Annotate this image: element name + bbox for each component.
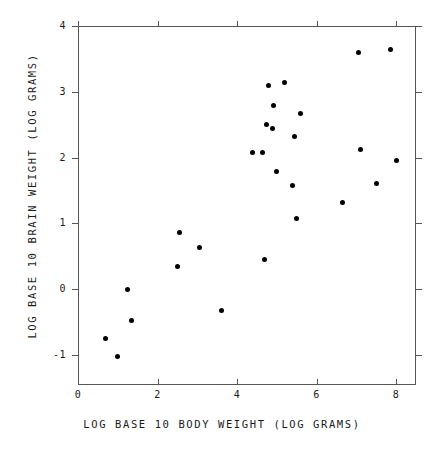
data-point (394, 158, 399, 163)
y-axis-tick (416, 223, 422, 224)
data-point (103, 336, 108, 341)
y-axis-tick (416, 289, 422, 290)
data-point (292, 134, 297, 139)
x-axis-tick (78, 379, 79, 385)
x-axis-tick (317, 379, 318, 385)
data-point (274, 169, 279, 174)
x-axis-tick-label: 2 (138, 389, 178, 401)
x-axis-tick-label: 4 (217, 389, 257, 401)
y-axis-tick (72, 223, 78, 224)
data-point (290, 183, 295, 188)
data-point (264, 122, 269, 127)
data-point (115, 354, 120, 359)
data-point (356, 50, 361, 55)
y-axis-tick (72, 355, 78, 356)
x-axis-tick (237, 379, 238, 385)
plot-data-area (78, 26, 416, 385)
y-axis-title-wrapper: LOG BASE 10 BRAIN WEIGHT (LOG GRAMS) (0, 0, 26, 400)
x-axis-title: LOG BASE 10 BODY WEIGHT (LOG GRAMS) (0, 418, 444, 430)
x-axis-tick-label: 8 (376, 389, 416, 401)
data-point (282, 80, 287, 85)
y-axis-tick (416, 158, 422, 159)
data-point (294, 216, 299, 221)
data-point (129, 318, 134, 323)
y-axis-tick (72, 92, 78, 93)
y-axis-title: LOG BASE 10 BRAIN WEIGHT (LOG GRAMS) (26, 0, 38, 396)
y-axis-tick (416, 355, 422, 356)
scatter-plot-figure: 0246843210-1 LOG BASE 10 BODY WEIGHT (LO… (0, 0, 444, 460)
data-point (197, 245, 202, 250)
y-axis-tick (416, 26, 422, 27)
data-point (177, 230, 182, 235)
data-point (266, 83, 271, 88)
data-point (340, 200, 345, 205)
data-point (271, 103, 276, 108)
data-point (262, 257, 267, 262)
x-axis-tick-label: 6 (297, 389, 337, 401)
data-point (175, 264, 180, 269)
data-point (298, 111, 303, 116)
x-axis-tick (396, 21, 397, 27)
data-point (260, 150, 265, 155)
data-point (388, 47, 393, 52)
y-axis-tick (72, 26, 78, 27)
x-axis-tick (158, 379, 159, 385)
x-axis-tick (158, 21, 159, 27)
data-point (219, 308, 224, 313)
y-axis-tick (72, 289, 78, 290)
data-point (358, 147, 363, 152)
x-axis-tick-label: 0 (58, 389, 98, 401)
x-axis-tick (237, 21, 238, 27)
x-axis-tick (78, 21, 79, 27)
data-point (374, 181, 379, 186)
y-axis-tick (72, 158, 78, 159)
x-axis-tick (396, 379, 397, 385)
data-point (125, 287, 130, 292)
data-point (270, 126, 275, 131)
x-axis-tick (317, 21, 318, 27)
y-axis-tick (416, 92, 422, 93)
data-point (250, 150, 255, 155)
